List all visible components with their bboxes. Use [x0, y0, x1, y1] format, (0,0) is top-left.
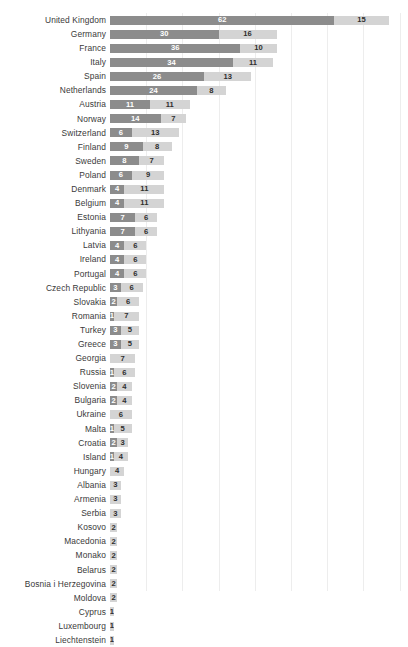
stacked-bar[interactable]: 23: [110, 438, 128, 447]
stacked-bar[interactable]: 35: [110, 340, 139, 349]
bar-segment[interactable]: 6: [110, 171, 132, 180]
bar-segment[interactable]: 6: [110, 128, 132, 137]
bar-segment[interactable]: 3: [110, 340, 121, 349]
bar-segment[interactable]: 11: [110, 100, 150, 109]
bar-segment[interactable]: 3: [110, 283, 121, 292]
stacked-bar[interactable]: 17: [110, 312, 139, 321]
stacked-bar[interactable]: 76: [110, 227, 157, 236]
bar-segment[interactable]: 7: [110, 354, 135, 363]
stacked-bar[interactable]: 2: [110, 537, 117, 546]
bar-segment[interactable]: 24: [110, 86, 197, 95]
stacked-bar[interactable]: 3016: [110, 30, 277, 39]
bar-segment[interactable]: 3: [110, 326, 121, 335]
bar-segment[interactable]: 7: [114, 312, 139, 321]
stacked-bar[interactable]: 14: [110, 452, 128, 461]
bar-segment[interactable]: 6: [124, 255, 146, 264]
bar-segment[interactable]: 4: [110, 467, 124, 476]
stacked-bar[interactable]: 3: [110, 509, 121, 518]
bar-segment[interactable]: 13: [204, 72, 251, 81]
stacked-bar[interactable]: 3411: [110, 58, 273, 67]
stacked-bar[interactable]: 69: [110, 171, 164, 180]
bar-segment[interactable]: 6: [110, 410, 132, 419]
stacked-bar[interactable]: 2: [110, 593, 117, 602]
bar-segment[interactable]: 3: [110, 481, 121, 490]
stacked-bar[interactable]: 6215: [110, 16, 389, 25]
stacked-bar[interactable]: 411: [110, 185, 164, 194]
bar-segment[interactable]: 9: [132, 171, 165, 180]
bar-segment[interactable]: 16: [219, 30, 277, 39]
bar-segment[interactable]: 4: [114, 452, 128, 461]
bar-segment[interactable]: 6: [117, 297, 139, 306]
bar-segment[interactable]: 6: [135, 213, 157, 222]
stacked-bar[interactable]: 3: [110, 481, 121, 490]
stacked-bar[interactable]: 24: [110, 396, 132, 405]
bar-segment[interactable]: 2: [110, 579, 117, 588]
stacked-bar[interactable]: 2: [110, 551, 117, 560]
bar-segment[interactable]: 13: [132, 128, 179, 137]
bar-segment[interactable]: 2: [110, 565, 117, 574]
bar-segment[interactable]: 1: [110, 607, 114, 616]
bar-segment[interactable]: 6: [124, 241, 146, 250]
bar-segment[interactable]: 4: [110, 185, 124, 194]
bar-segment[interactable]: 6: [124, 269, 146, 278]
bar-segment[interactable]: 5: [121, 326, 139, 335]
stacked-bar[interactable]: 46: [110, 269, 146, 278]
stacked-bar[interactable]: 411: [110, 199, 164, 208]
stacked-bar[interactable]: 76: [110, 213, 157, 222]
stacked-bar[interactable]: 1111: [110, 100, 190, 109]
bar-segment[interactable]: 11: [124, 199, 164, 208]
bar-segment[interactable]: 2: [110, 438, 117, 447]
stacked-bar[interactable]: 35: [110, 326, 139, 335]
bar-segment[interactable]: 3: [117, 438, 128, 447]
stacked-bar[interactable]: 248: [110, 86, 226, 95]
bar-segment[interactable]: 9: [110, 142, 143, 151]
bar-segment[interactable]: 2: [110, 396, 117, 405]
bar-segment[interactable]: 5: [114, 424, 132, 433]
bar-segment[interactable]: 15: [334, 16, 388, 25]
bar-segment[interactable]: 2: [110, 297, 117, 306]
bar-segment[interactable]: 2: [110, 382, 117, 391]
bar-segment[interactable]: 4: [110, 255, 124, 264]
stacked-bar[interactable]: 1: [110, 607, 114, 616]
bar-segment[interactable]: 5: [121, 340, 139, 349]
stacked-bar[interactable]: 15: [110, 424, 132, 433]
bar-segment[interactable]: 26: [110, 72, 204, 81]
bar-segment[interactable]: 36: [110, 44, 240, 53]
stacked-bar[interactable]: 98: [110, 142, 172, 151]
stacked-bar[interactable]: 6: [110, 410, 132, 419]
stacked-bar[interactable]: 24: [110, 382, 132, 391]
bar-segment[interactable]: 30: [110, 30, 219, 39]
bar-segment[interactable]: 6: [114, 368, 136, 377]
stacked-bar[interactable]: 3610: [110, 44, 277, 53]
bar-segment[interactable]: 14: [110, 114, 161, 123]
bar-segment[interactable]: 4: [110, 241, 124, 250]
stacked-bar[interactable]: 2613: [110, 72, 251, 81]
bar-segment[interactable]: 3: [110, 509, 121, 518]
bar-segment[interactable]: 7: [110, 227, 135, 236]
stacked-bar[interactable]: 46: [110, 241, 146, 250]
stacked-bar[interactable]: 46: [110, 255, 146, 264]
bar-segment[interactable]: 7: [139, 156, 164, 165]
bar-segment[interactable]: 8: [197, 86, 226, 95]
stacked-bar[interactable]: 36: [110, 283, 143, 292]
bar-segment[interactable]: 3: [110, 495, 121, 504]
bar-segment[interactable]: 4: [117, 396, 131, 405]
bar-segment[interactable]: 6: [121, 283, 143, 292]
stacked-bar[interactable]: 3: [110, 495, 121, 504]
bar-segment[interactable]: 4: [117, 382, 131, 391]
stacked-bar[interactable]: 26: [110, 297, 139, 306]
bar-segment[interactable]: 2: [110, 523, 117, 532]
bar-segment[interactable]: 11: [233, 58, 273, 67]
stacked-bar[interactable]: 16: [110, 368, 135, 377]
bar-segment[interactable]: 8: [110, 156, 139, 165]
stacked-bar[interactable]: 4: [110, 467, 124, 476]
bar-segment[interactable]: 62: [110, 16, 334, 25]
bar-segment[interactable]: 34: [110, 58, 233, 67]
bar-segment[interactable]: 2: [110, 537, 117, 546]
stacked-bar[interactable]: 2: [110, 523, 117, 532]
bar-segment[interactable]: 7: [161, 114, 186, 123]
stacked-bar[interactable]: 147: [110, 114, 186, 123]
bar-segment[interactable]: 8: [143, 142, 172, 151]
bar-segment[interactable]: 2: [110, 593, 117, 602]
bar-segment[interactable]: 11: [150, 100, 190, 109]
